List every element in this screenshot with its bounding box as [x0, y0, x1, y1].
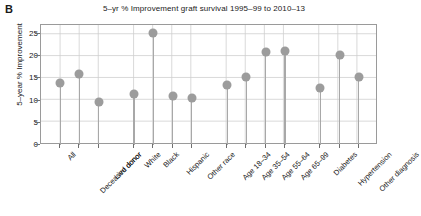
data-point[interactable]	[316, 84, 325, 93]
x-tick-label: Black	[162, 150, 181, 169]
x-tick-mark	[152, 144, 153, 148]
data-point-stem	[133, 94, 134, 145]
data-point-stem	[98, 102, 99, 145]
data-point[interactable]	[75, 69, 84, 78]
x-tick-mark	[172, 144, 173, 148]
plot-area	[40, 24, 377, 144]
data-point-stem	[339, 55, 340, 145]
data-point-stem	[60, 83, 61, 145]
data-point[interactable]	[223, 80, 232, 89]
data-point-stem	[265, 52, 266, 145]
data-point[interactable]	[56, 78, 65, 87]
data-point-stem	[172, 96, 173, 145]
x-tick-label: Live donor	[112, 150, 143, 181]
y-tick-mark	[35, 144, 40, 145]
data-point-stem	[284, 51, 285, 145]
data-point[interactable]	[242, 73, 251, 82]
x-tick-label: Diabetes	[332, 150, 359, 177]
x-tick-mark	[284, 144, 285, 148]
data-point[interactable]	[187, 94, 196, 103]
x-tick-mark	[358, 144, 359, 148]
data-point-stem	[227, 85, 228, 145]
x-tick-mark	[59, 144, 60, 148]
x-tick-mark	[265, 144, 266, 148]
x-tick-label: White	[143, 150, 163, 170]
data-point[interactable]	[168, 91, 177, 100]
x-tick-mark	[226, 144, 227, 148]
data-point[interactable]	[94, 98, 103, 107]
gridlines	[41, 25, 376, 143]
data-point-stem	[320, 88, 321, 145]
x-tick-label: All	[66, 150, 78, 162]
x-tick-mark	[78, 144, 79, 148]
x-tick-mark	[133, 144, 134, 148]
data-point-stem	[79, 74, 80, 145]
x-tick-mark	[98, 144, 99, 148]
x-tick-mark	[339, 144, 340, 148]
x-tick-mark	[191, 144, 192, 148]
data-point-stem	[246, 77, 247, 145]
y-axis-label: 5–year % Improvement	[15, 5, 24, 125]
data-point[interactable]	[354, 73, 363, 82]
data-point[interactable]	[149, 29, 158, 38]
x-tick-mark	[245, 144, 246, 148]
x-tick-mark	[319, 144, 320, 148]
data-point[interactable]	[130, 90, 139, 99]
data-point-stem	[191, 98, 192, 145]
data-point[interactable]	[335, 51, 344, 60]
chart-title: 5–yr % Improvement graft survival 1995–9…	[30, 4, 378, 13]
data-point-stem	[153, 33, 154, 145]
data-point[interactable]	[280, 46, 289, 55]
data-point[interactable]	[261, 47, 270, 56]
panel-letter: B	[5, 3, 13, 15]
data-point-stem	[358, 77, 359, 145]
